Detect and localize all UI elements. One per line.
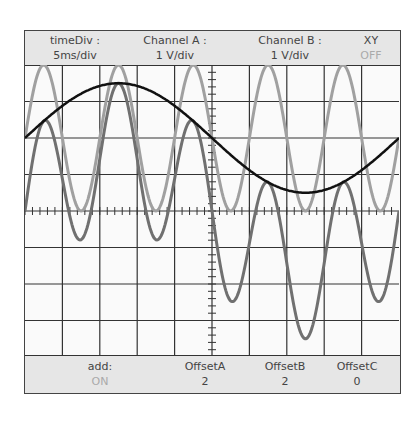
xy-value: OFF bbox=[341, 48, 401, 63]
xy-label: XY bbox=[341, 33, 401, 48]
offset-b-label: OffsetB bbox=[245, 359, 325, 374]
add-value: ON bbox=[55, 374, 145, 389]
oscilloscope-frame: timeDiv : 5ms/div Channel A : 1 V/div Ch… bbox=[24, 30, 401, 394]
offset-a-label: OffsetA bbox=[165, 359, 245, 374]
channel-b-control[interactable]: Channel B : 1 V/div bbox=[235, 33, 345, 63]
offset-c-control[interactable]: OffsetC 0 bbox=[317, 359, 397, 389]
channel-b-label: Channel B : bbox=[235, 33, 345, 48]
scope-screen bbox=[25, 65, 399, 357]
timediv-label: timeDiv : bbox=[25, 33, 125, 48]
add-label: add: bbox=[55, 359, 145, 374]
add-toggle[interactable]: add: ON bbox=[55, 359, 145, 389]
timediv-value: 5ms/div bbox=[25, 48, 125, 63]
xy-toggle[interactable]: XY OFF bbox=[341, 33, 401, 63]
offset-b-control[interactable]: OffsetB 2 bbox=[245, 359, 325, 389]
offset-a-value: 2 bbox=[165, 374, 245, 389]
offset-c-value: 0 bbox=[317, 374, 397, 389]
settings-footer: add: ON OffsetA 2 OffsetB 2 OffsetC 0 bbox=[25, 355, 400, 393]
channel-a-label: Channel A : bbox=[125, 33, 225, 48]
offset-b-value: 2 bbox=[245, 374, 325, 389]
settings-header: timeDiv : 5ms/div Channel A : 1 V/div Ch… bbox=[25, 31, 400, 66]
timediv-control[interactable]: timeDiv : 5ms/div bbox=[25, 33, 125, 63]
offset-c-label: OffsetC bbox=[317, 359, 397, 374]
waveform-display bbox=[25, 65, 399, 357]
offset-a-control[interactable]: OffsetA 2 bbox=[165, 359, 245, 389]
channel-b-value: 1 V/div bbox=[235, 48, 345, 63]
channel-a-value: 1 V/div bbox=[125, 48, 225, 63]
channel-a-control[interactable]: Channel A : 1 V/div bbox=[125, 33, 225, 63]
